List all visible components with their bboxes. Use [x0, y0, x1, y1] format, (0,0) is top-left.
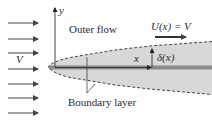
- incoming-flow-arrows: [8, 23, 38, 113]
- inlet-velocity-label: V: [16, 53, 24, 65]
- outer-flow-label: Outer flow: [69, 23, 117, 35]
- boundary-layer-diagram: y Outer flow U(x) = V V x δ(x) Boundary …: [0, 0, 212, 131]
- y-axis-label: y: [58, 4, 64, 16]
- boundary-layer-label: Boundary layer: [68, 96, 136, 108]
- thickness-label: δ(x): [157, 51, 175, 64]
- x-coordinate-label: x: [133, 52, 139, 64]
- free-stream-velocity-label: U(x) = V: [151, 20, 192, 33]
- leader-line: [87, 84, 95, 93]
